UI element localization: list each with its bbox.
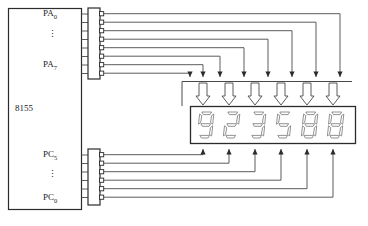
port-a-ellipsis: ⋮ <box>46 33 58 36</box>
segment-d <box>304 135 314 138</box>
segment-g <box>201 124 211 127</box>
chip-name-label: 8155 <box>15 104 33 113</box>
digit-select-lines <box>104 149 333 197</box>
segment-driver-buffer <box>88 8 104 79</box>
segment-a <box>254 112 264 115</box>
digit-driver-buffer <box>88 149 104 205</box>
segment-a <box>332 112 342 115</box>
segment-g <box>279 124 289 127</box>
segment-d <box>226 135 236 138</box>
segment-bus-lines <box>104 14 340 77</box>
segment-d <box>330 135 340 138</box>
port-a-top-label: PA0 <box>43 9 57 20</box>
segment-g <box>305 124 315 127</box>
segment-d <box>200 135 210 138</box>
segment-a <box>306 112 316 115</box>
segment-g <box>227 124 237 127</box>
diagram-canvas: PA0 ⋮ PA7 8155 PC5 ⋮ PC0 <box>0 0 368 226</box>
segment-g <box>253 124 263 127</box>
segment-a <box>202 112 212 115</box>
segment-g <box>331 124 341 127</box>
port-c-ellipsis: ⋮ <box>46 173 58 176</box>
segment-block-arrows <box>196 83 340 105</box>
display-enclosure <box>191 107 356 144</box>
port-a-wires <box>82 14 89 74</box>
port-c-wires <box>82 155 89 198</box>
port-c-top-label: PC5 <box>43 150 57 161</box>
segment-a <box>280 112 290 115</box>
segment-d <box>252 135 262 138</box>
port-c-bottom-label: PC0 <box>43 193 57 204</box>
segment-d <box>278 135 288 138</box>
segment-bus-bar <box>182 82 352 107</box>
segment-a <box>228 112 238 115</box>
port-a-bottom-label: PA7 <box>43 60 57 71</box>
